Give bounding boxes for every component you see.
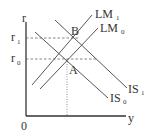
x-axis-label: y bbox=[128, 111, 134, 125]
origin-label: 0 bbox=[21, 119, 27, 133]
lm0-curve bbox=[40, 28, 98, 89]
is1-label: IS bbox=[128, 82, 139, 96]
is-lm-diagram: r y 0 r 1 r 0 LM 1 LM 0 IS 1 IS 0 B A bbox=[0, 0, 153, 137]
lm0-subscript: 0 bbox=[121, 28, 125, 36]
is0-subscript: 0 bbox=[123, 98, 127, 106]
point-b-label: B bbox=[71, 24, 79, 38]
is0-label: IS bbox=[110, 91, 121, 105]
lm1-label: LM bbox=[95, 7, 113, 21]
is1-subscript: 1 bbox=[141, 89, 145, 97]
point-a-label: A bbox=[69, 63, 78, 77]
r0-label: r bbox=[11, 51, 15, 65]
r0-subscript: 0 bbox=[17, 59, 21, 67]
lm0-label: LM bbox=[100, 21, 118, 35]
lm1-curve bbox=[32, 15, 92, 85]
y-axis-label: r bbox=[22, 11, 26, 25]
r1-label: r bbox=[11, 30, 15, 44]
r1-subscript: 1 bbox=[17, 38, 21, 46]
